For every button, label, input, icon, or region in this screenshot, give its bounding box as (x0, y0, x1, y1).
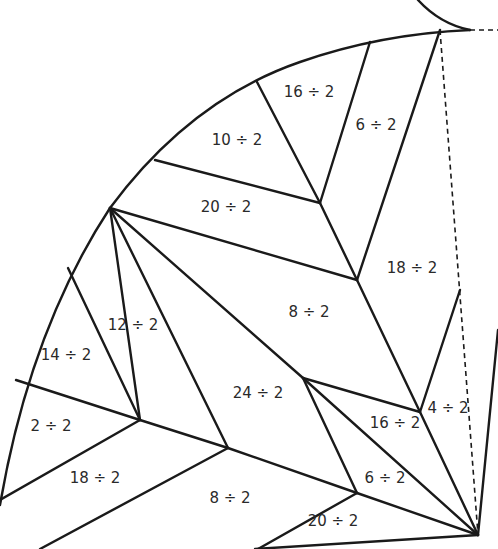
region-label: 16 ÷ 2 (284, 83, 335, 101)
edge (320, 203, 357, 280)
region-label: 20 ÷ 2 (308, 512, 359, 530)
edge (16, 380, 140, 420)
region-label: 16 ÷ 2 (370, 414, 421, 432)
edge (420, 412, 478, 535)
edge (110, 208, 357, 280)
region-label: 10 ÷ 2 (212, 131, 263, 149)
region-label: 8 ÷ 2 (209, 489, 250, 507)
region-label: 20 ÷ 2 (201, 198, 252, 216)
puzzle-diagram: 16 ÷ 2 6 ÷ 2 10 ÷ 2 20 ÷ 2 18 ÷ 2 8 ÷ 2 … (0, 0, 498, 549)
edge (420, 290, 460, 412)
edge (40, 448, 228, 549)
region-label: 24 ÷ 2 (233, 384, 284, 402)
edge (357, 30, 440, 280)
edge (228, 448, 357, 493)
region-label: 18 ÷ 2 (70, 469, 121, 487)
right-edge-line (478, 330, 498, 535)
bottom-edge-line (255, 535, 478, 549)
vertical-dashed-line (440, 30, 478, 535)
region-label: 4 ÷ 2 (427, 399, 468, 417)
top-cusp-arc (418, 0, 470, 30)
region-label: 12 ÷ 2 (108, 316, 159, 334)
region-label: 8 ÷ 2 (288, 303, 329, 321)
region-label: 2 ÷ 2 (30, 417, 71, 435)
region-label: 6 ÷ 2 (364, 469, 405, 487)
edge (140, 420, 228, 448)
edge (357, 280, 420, 412)
region-label: 6 ÷ 2 (355, 116, 396, 134)
edge (110, 208, 303, 378)
region-label: 14 ÷ 2 (41, 346, 92, 364)
region-label: 18 ÷ 2 (387, 259, 438, 277)
